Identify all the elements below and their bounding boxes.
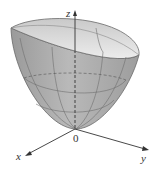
y-axis-arrow-icon <box>142 146 149 151</box>
x-axis <box>28 129 75 154</box>
x-axis-label: x <box>16 151 21 162</box>
paraboloid-diagram <box>0 0 159 173</box>
x-axis-arrow-icon <box>25 151 32 156</box>
y-axis-label: y <box>141 153 146 164</box>
z-axis-label: z <box>66 8 70 19</box>
origin-label: 0 <box>73 133 79 144</box>
y-axis <box>75 129 145 149</box>
z-axis-arrow-icon <box>73 10 77 16</box>
